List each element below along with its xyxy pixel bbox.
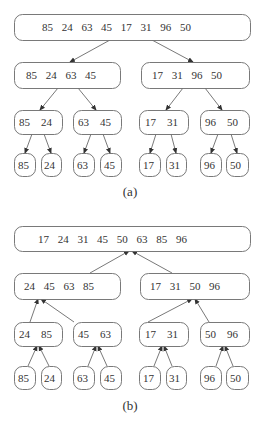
array-node: 1731	[140, 111, 189, 135]
panel-caption: (a)	[123, 184, 137, 199]
array-node: 17315096	[141, 274, 250, 300]
node-values: 45	[104, 159, 116, 171]
node-box	[15, 227, 251, 252]
node-values: 24	[44, 159, 56, 171]
node-values: 96	[204, 372, 216, 384]
array-node: 31	[167, 154, 187, 177]
array-node: 45	[101, 154, 122, 177]
node-values: 85	[18, 159, 30, 171]
arrow-edge	[164, 346, 172, 366]
panel-b-merge-tree: 1724314550638596244563851731509624854563…	[15, 227, 251, 414]
array-node: 50	[227, 367, 249, 390]
array-node: 85	[15, 367, 36, 390]
array-node: 6345	[74, 111, 122, 135]
panel-caption: (b)	[122, 398, 137, 413]
array-node: 17	[140, 154, 161, 177]
panel-a-divide-tree: 8524634517319650852463451731965085246345…	[15, 15, 251, 200]
array-node: 85246345	[15, 63, 121, 89]
arrow-edge	[25, 134, 32, 153]
node-values: 17	[143, 159, 155, 171]
arrow-edge	[41, 299, 74, 322]
arrow-edge	[30, 299, 38, 322]
arrow-edge	[78, 88, 96, 110]
array-node: 31	[167, 367, 187, 390]
array-node: 9650	[201, 111, 250, 135]
node-values: 63	[77, 372, 89, 384]
array-node: 50	[227, 154, 249, 177]
array-node: 8524	[15, 111, 63, 135]
node-values: 17	[143, 372, 155, 384]
arrow-edge	[88, 346, 96, 366]
arrow-edge	[44, 134, 51, 153]
array-node: 24	[42, 367, 62, 390]
node-values: 85	[18, 372, 30, 384]
arrow-edge	[166, 88, 183, 110]
node-values: 45	[104, 372, 116, 384]
array-node: 63	[74, 367, 95, 390]
arrow-edge	[98, 346, 107, 366]
arrow-edge	[205, 88, 222, 110]
arrow-edge	[40, 88, 58, 110]
array-node: 1731	[140, 323, 189, 347]
arrow-edge	[225, 346, 233, 366]
arrow-edge	[171, 134, 176, 153]
arrow-edge	[90, 251, 129, 273]
array-node: 96	[201, 367, 222, 390]
arrow-edge	[28, 346, 37, 366]
array-node: 1724314550638596	[15, 227, 251, 252]
arrow-edge	[39, 346, 49, 366]
arrow-edge	[211, 134, 218, 153]
node-values: 31	[169, 159, 180, 171]
array-node: 63	[74, 154, 95, 177]
node-values: 31	[169, 372, 180, 384]
array-node: 24	[42, 154, 62, 177]
node-values: 63	[77, 159, 89, 171]
array-node: 5096	[201, 323, 250, 347]
arrow-edge	[231, 134, 237, 153]
arrow-edge	[84, 134, 91, 153]
arrow-edge	[148, 299, 192, 322]
arrow-edge	[216, 346, 223, 366]
node-values: 50	[230, 159, 242, 171]
node-values: 96	[204, 159, 216, 171]
arrow-edge	[195, 299, 209, 322]
array-node: 4563	[74, 323, 122, 347]
array-node: 2485	[15, 323, 63, 347]
node-values: 50	[230, 372, 242, 384]
arrow-edge	[152, 40, 193, 62]
array-node: 96	[201, 154, 222, 177]
array-node: 8524634517319650	[15, 15, 251, 41]
array-node: 45	[101, 367, 122, 390]
array-node: 85	[15, 154, 36, 177]
arrow-edge	[132, 251, 172, 273]
arrow-edge	[150, 134, 156, 153]
array-node: 17	[140, 367, 161, 390]
array-node: 24456385	[15, 274, 121, 300]
arrow-edge	[70, 40, 110, 62]
merge-sort-diagram: 8524634517319650852463451731965085246345…	[0, 0, 268, 422]
node-values: 24	[44, 372, 56, 384]
array-node: 17319650	[142, 63, 250, 89]
arrow-edge	[103, 134, 110, 153]
arrow-edge	[154, 346, 162, 366]
